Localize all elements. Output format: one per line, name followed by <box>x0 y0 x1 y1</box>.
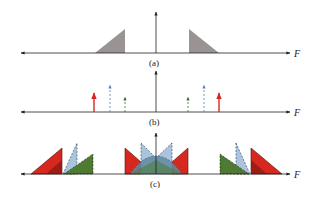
spectrum-diagram: F (a) F (b) F (c) <box>0 0 321 200</box>
panel-a: F (a) <box>21 12 301 68</box>
panel-caption-c: (c) <box>150 179 160 189</box>
axis-label-f: F <box>293 48 301 59</box>
panel-b: F (b) <box>21 71 301 127</box>
right-spectrum-triangle <box>189 29 219 53</box>
axis-label-f: F <box>293 169 301 180</box>
axis-label-f: F <box>293 107 301 118</box>
left-spectrum-triangle <box>95 29 125 53</box>
panel-caption-a: (a) <box>149 58 159 68</box>
panel-c: F (c) <box>21 133 301 189</box>
panel-caption-b: (b) <box>149 117 160 127</box>
